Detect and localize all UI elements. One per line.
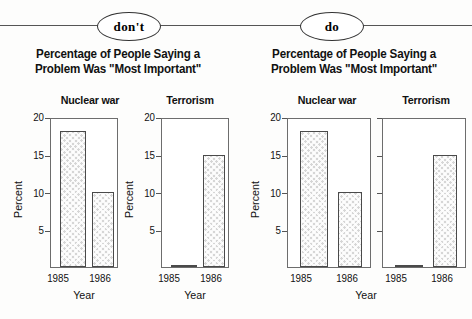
xtick-label-1985-nuclear-do: 1985 <box>281 273 322 284</box>
bar-nuclear-war-1986-dont <box>92 192 114 267</box>
ytick-15-terrorism-dont <box>156 156 161 157</box>
do-badge: do <box>300 12 364 41</box>
ytick-label-15-terrorism-dont: 15 <box>135 150 155 161</box>
dont-panel: Percentage of People Saying a Problem Wa… <box>0 38 236 319</box>
ytick-15-nuclear-do <box>282 156 287 157</box>
ytick-10-terrorism-do <box>377 193 382 194</box>
xtick-label-1985-terrorism-dont: 1985 <box>149 273 190 284</box>
plot-frame-nuclear-war-dont <box>50 118 118 268</box>
xaxis-title-shared-do: Year <box>329 290 403 302</box>
ytick-label-15-nuclear-do: 15 <box>261 150 281 161</box>
ytick-label-5-nuclear-do: 5 <box>261 225 281 236</box>
ytick-label-10-terrorism-dont: 10 <box>135 188 155 199</box>
bar-terrorism-1985-dont <box>171 265 197 268</box>
subplot-title-terrorism-dont: Terrorism <box>151 94 229 106</box>
xtick-label-1985-nuclear-dont: 1985 <box>38 273 79 284</box>
plot-frame-terrorism-dont <box>161 118 229 268</box>
ytick-label-10-nuclear-dont: 10 <box>24 188 44 199</box>
ytick-15-terrorism-do <box>377 156 382 157</box>
ytick-20-nuclear-do <box>282 118 287 119</box>
xtick-label-1986-nuclear-do: 1986 <box>327 273 368 284</box>
ytick-label-10-nuclear-do: 10 <box>261 188 281 199</box>
bar-terrorism-1986-dont <box>203 155 225 268</box>
subplot-title-nuclear-war-dont: Nuclear war <box>44 94 137 106</box>
ytick-5-terrorism-dont <box>156 231 161 232</box>
ytick-20-nuclear-dont <box>45 118 50 119</box>
xaxis-title-nuclear-dont: Year <box>47 290 121 302</box>
ytick-label-15-nuclear-dont: 15 <box>24 150 44 161</box>
yaxis-title-nuclear-dont: Percent <box>13 181 25 218</box>
xtick-label-1986-nuclear-dont: 1986 <box>80 273 121 284</box>
ytick-label-20-nuclear-do: 20 <box>261 112 281 123</box>
bar-terrorism-1986-do <box>433 155 457 268</box>
plot-frame-terrorism-do <box>382 118 466 268</box>
ytick-10-terrorism-dont <box>156 193 161 194</box>
bar-nuclear-war-1985-do <box>300 131 328 268</box>
dont-badge: don't <box>97 12 161 41</box>
ytick-20-terrorism-dont <box>156 118 161 119</box>
ytick-label-20-nuclear-dont: 20 <box>24 112 44 123</box>
ytick-20-terrorism-do <box>377 118 382 119</box>
ytick-5-nuclear-dont <box>45 231 50 232</box>
ytick-15-nuclear-dont <box>45 156 50 157</box>
ytick-5-nuclear-do <box>282 231 287 232</box>
ytick-10-nuclear-dont <box>45 193 50 194</box>
dont-badge-label: don't <box>114 20 145 33</box>
subplot-title-terrorism-do: Terrorism <box>387 94 465 106</box>
subplot-title-nuclear-war-do: Nuclear war <box>281 94 374 106</box>
chart-title-dont: Percentage of People Saying a Problem Wa… <box>16 47 221 77</box>
do-badge-label: do <box>325 20 340 33</box>
chart-title-do: Percentage of People Saying a Problem Wa… <box>252 47 457 77</box>
bar-terrorism-1985-do <box>395 265 423 268</box>
ytick-10-nuclear-do <box>282 193 287 194</box>
ytick-label-20-terrorism-dont: 20 <box>135 112 155 123</box>
dont-do-banner: don't do <box>0 0 472 38</box>
banner-rule <box>0 25 472 26</box>
ytick-label-5-terrorism-dont: 5 <box>135 225 155 236</box>
yaxis-title-terrorism-dont: Percent <box>124 181 136 218</box>
xaxis-title-terrorism-dont: Year <box>158 290 232 302</box>
bar-nuclear-war-1986-do <box>338 192 362 267</box>
plot-frame-nuclear-war-do <box>287 118 371 268</box>
xtick-label-1986-terrorism-do: 1986 <box>422 273 463 284</box>
do-panel: Percentage of People Saying a Problem Wa… <box>236 38 472 319</box>
yaxis-title-do: Percent <box>250 181 262 218</box>
ytick-5-terrorism-do <box>377 231 382 232</box>
xtick-label-1986-terrorism-dont: 1986 <box>191 273 232 284</box>
ytick-label-5-nuclear-dont: 5 <box>24 225 44 236</box>
xtick-label-1985-terrorism-do: 1985 <box>376 273 417 284</box>
bar-nuclear-war-1985-dont <box>60 131 86 268</box>
